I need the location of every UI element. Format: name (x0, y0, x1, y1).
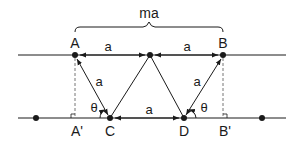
point-a (72, 52, 78, 58)
point-d (181, 115, 187, 121)
point-left (33, 115, 39, 121)
right-angle-bprime (223, 114, 227, 118)
segment-m-d (150, 55, 184, 118)
point-b (220, 52, 226, 58)
label-segment-ca: a (95, 74, 103, 89)
diagram-canvas: ma A B C D A' B' a a a a a θ θ (0, 0, 299, 144)
point-right (259, 115, 265, 121)
segment-c-m (110, 55, 150, 118)
label-c: C (105, 123, 115, 139)
label-segment-mb: a (183, 39, 191, 54)
brace-label: ma (139, 5, 159, 21)
point-c (107, 115, 113, 121)
label-b: B (218, 35, 227, 51)
brace (75, 22, 223, 32)
label-theta-c: θ (90, 100, 97, 115)
angle-arc-d (189, 110, 196, 119)
label-segment-am: a (104, 39, 112, 54)
label-d: D (179, 123, 189, 139)
label-b-prime: B' (219, 123, 231, 139)
right-angle-aprime (71, 114, 75, 118)
angle-arc-c (100, 110, 105, 119)
label-a-prime: A' (71, 123, 83, 139)
point-m (147, 52, 153, 58)
label-theta-d: θ (200, 100, 207, 115)
label-segment-db: a (193, 74, 201, 89)
label-segment-cd: a (145, 102, 153, 117)
label-a: A (70, 35, 80, 51)
